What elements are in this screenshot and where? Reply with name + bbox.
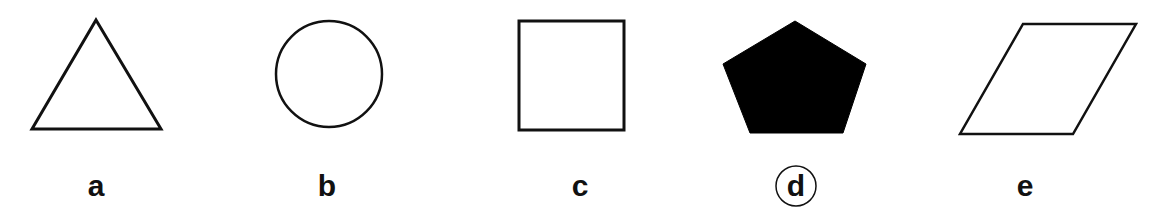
triangle-shape (32, 20, 161, 129)
option-d: d (723, 21, 866, 206)
option-label-e: e (1017, 169, 1034, 202)
option-b: b (276, 21, 382, 202)
option-label-a: a (88, 169, 105, 202)
option-a: a (32, 20, 161, 202)
option-c: c (519, 21, 624, 202)
square-shape (519, 21, 624, 130)
option-e: e (960, 24, 1136, 202)
parallelogram-shape (960, 24, 1136, 134)
pentagon-shape (723, 21, 866, 133)
option-label-c: c (572, 169, 589, 202)
option-label-b: b (318, 169, 336, 202)
circle-shape (276, 21, 382, 127)
shapes-figure: a b c d e (0, 0, 1162, 212)
option-label-d: d (787, 169, 805, 202)
